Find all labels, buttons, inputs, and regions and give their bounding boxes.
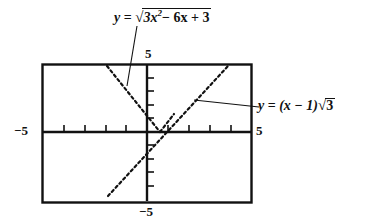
axis-label-right-five: 5 <box>256 124 263 137</box>
equation-right-factor: (x − 1) <box>279 98 318 113</box>
equation-right-lhs: y <box>258 98 264 113</box>
axis-label-bottom-neg-five: −5 <box>139 205 153 218</box>
equation-top-eq: = <box>124 10 132 25</box>
axis-label-top-five: 5 <box>145 47 152 60</box>
equation-label-sqrt: y = √3x2− 6x + 3 <box>114 8 211 25</box>
equation-right-radicand: 3 <box>325 98 335 113</box>
equation-top-radicand-a: 3x <box>143 10 157 25</box>
equation-top-radicand-b: − 6x + 3 <box>162 10 209 25</box>
equation-top-radicand: 3x2− 6x + 3 <box>142 8 211 25</box>
equation-label-line: y = (x − 1)√3 <box>258 98 335 113</box>
axis-label-left-neg-five: −5 <box>14 124 28 137</box>
equation-right-eq: = <box>268 98 276 113</box>
equation-top-lhs: y <box>114 10 120 25</box>
